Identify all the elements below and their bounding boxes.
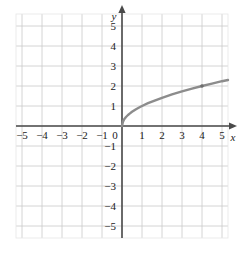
y-tick-label: −1	[104, 140, 116, 152]
x-axis-name-label: x	[230, 131, 236, 143]
x-tick-label: 1	[139, 129, 145, 141]
data-point-marker	[200, 84, 204, 88]
x-tick-label: −5	[16, 129, 28, 141]
y-tick-label: 4	[111, 40, 117, 52]
y-tick-label: −4	[104, 200, 116, 212]
coordinate-graph: −5−4−3−2−101234554321−1−2−3−4−5 x y	[0, 0, 245, 254]
graph-canvas: −5−4−3−2−101234554321−1−2−3−4−5 x y	[0, 0, 245, 254]
x-tick-label: 2	[159, 129, 165, 141]
y-tick-label: 2	[111, 80, 117, 92]
x-tick-label: 4	[199, 129, 205, 141]
y-tick-label: −2	[104, 160, 116, 172]
x-tick-label: −3	[56, 129, 68, 141]
y-tick-label: −5	[104, 220, 116, 232]
y-tick-label: 1	[111, 100, 117, 112]
data-point-markers	[200, 84, 204, 88]
x-tick-label: −4	[36, 129, 48, 141]
x-tick-label: 5	[219, 129, 225, 141]
y-axis-name-label: y	[111, 10, 117, 22]
x-tick-label: 3	[179, 129, 185, 141]
y-tick-label: 3	[111, 60, 117, 72]
y-tick-label: −3	[104, 180, 116, 192]
x-tick-label: −2	[76, 129, 88, 141]
